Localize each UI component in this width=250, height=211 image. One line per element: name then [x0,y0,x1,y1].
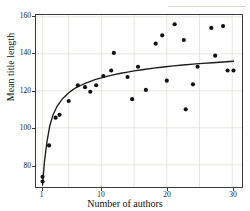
x-axis-title: Number of authors [0,199,250,209]
data-point [94,83,98,87]
y-axis-title: Mean title length [6,12,16,122]
data-point [160,33,164,37]
y-axis-tick [32,91,35,92]
data-point [101,74,105,78]
data-point [184,107,188,111]
data-point [112,51,116,55]
data-point [165,79,169,83]
data-point [154,42,158,46]
y-axis-tick [32,16,35,17]
data-point [88,90,92,94]
data-point [226,68,230,72]
y-axis-tick-label: 140 [20,49,31,57]
scatter-plot-figure: Number of authors Mean title length 8010… [0,0,250,211]
data-point [136,65,140,69]
data-points [36,15,242,187]
y-axis-tick [32,166,35,167]
y-axis-tick [32,53,35,54]
plot-area [35,14,243,188]
data-point [76,83,80,87]
data-point [67,99,71,103]
data-point [47,143,51,147]
scan-artifact-line [168,6,246,7]
x-axis-tick-label: 30 [229,191,237,199]
data-point [173,22,177,26]
data-point [130,97,134,101]
y-axis-tick-label: 120 [20,87,31,95]
data-point [209,26,213,30]
data-point [57,113,61,117]
x-axis-tick-label: 1 [40,191,44,199]
y-axis-tick-label: 100 [20,124,31,132]
data-point [144,88,148,92]
data-point [54,116,58,120]
data-point [221,24,225,28]
data-point [83,85,87,89]
y-axis-tick-label: 80 [24,162,32,170]
data-point [213,54,217,58]
data-point [191,82,195,86]
y-axis-tick [32,128,35,129]
x-axis-tick-label: 20 [163,191,171,199]
data-point [125,75,129,79]
y-axis-tick-label: 160 [20,12,31,20]
data-point [40,175,44,179]
data-point [195,65,199,69]
x-axis-tick-label: 10 [97,191,105,199]
data-point [182,38,186,42]
data-point [109,68,113,72]
data-point [231,68,235,72]
data-point [40,179,44,183]
